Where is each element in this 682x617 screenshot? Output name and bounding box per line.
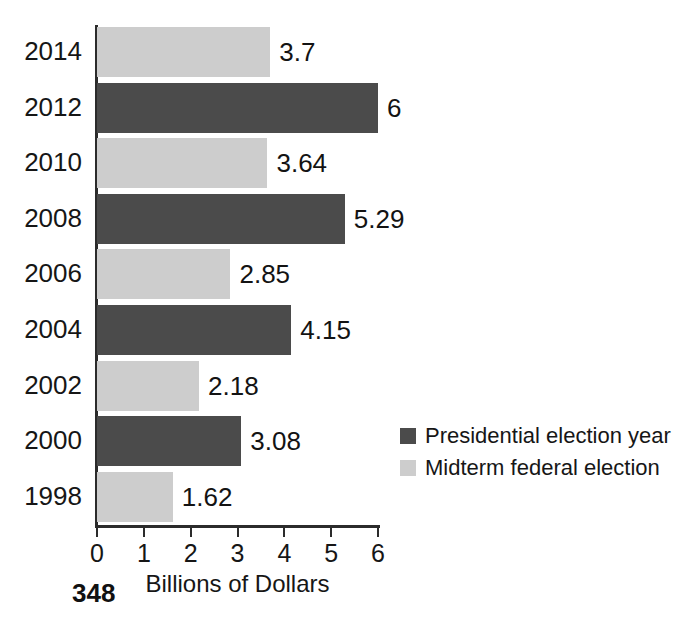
legend-item-presidential: Presidential election year: [400, 420, 670, 452]
bar-2014: [97, 27, 270, 77]
category-label-2010: 2010: [0, 147, 92, 177]
x-tick-6: [377, 528, 379, 537]
bar-row: 20103.64: [97, 136, 378, 192]
bar-row: 20143.7: [97, 25, 378, 81]
category-label-2000: 2000: [0, 425, 92, 455]
x-tick-0: [96, 528, 98, 537]
legend-swatch-presidential-icon: [400, 428, 416, 444]
bar-value-label-2000: 3.08: [250, 426, 301, 456]
bar-value-label-2008: 5.29: [354, 204, 405, 234]
chart-legend: Presidential election year Midterm feder…: [400, 420, 670, 484]
bar-value-label-2004: 4.15: [300, 315, 351, 345]
bar-row: 20044.15: [97, 303, 378, 359]
bar-2012: [97, 83, 378, 133]
bar-row: 20003.08: [97, 414, 378, 470]
x-axis-title: Billions of Dollars: [97, 570, 378, 598]
x-tick-5: [330, 528, 332, 537]
bar-2000: [97, 416, 241, 466]
bar-1998: [97, 472, 173, 522]
bar-row: 20022.18: [97, 359, 378, 415]
plot-area: 20143.72012620103.6420085.2920062.852004…: [97, 25, 378, 525]
bar-value-label-2002: 2.18: [208, 371, 259, 401]
x-tick-2: [190, 528, 192, 537]
bar-2006: [97, 249, 230, 299]
bar-row: 20062.85: [97, 247, 378, 303]
legend-item-midterm: Midterm federal election: [400, 452, 670, 484]
bar-2002: [97, 361, 199, 411]
bar-row: 20085.29: [97, 192, 378, 248]
x-tick-3: [237, 528, 239, 537]
bar-value-label-2010: 3.64: [276, 148, 327, 178]
legend-label-presidential: Presidential election year: [425, 423, 671, 449]
bar-value-label-2014: 3.7: [279, 37, 315, 67]
x-tick-label-6: 6: [358, 538, 398, 568]
x-tick-label-4: 4: [264, 538, 304, 568]
bar-value-label-1998: 1.62: [182, 482, 233, 512]
category-label-2002: 2002: [0, 370, 92, 400]
bar-2008: [97, 194, 345, 244]
category-label-2004: 2004: [0, 314, 92, 344]
legend-label-midterm: Midterm federal election: [425, 455, 660, 481]
bar-value-label-2006: 2.85: [239, 259, 290, 289]
bar-2010: [97, 138, 267, 188]
category-label-1998: 1998: [0, 481, 92, 511]
legend-swatch-midterm-icon: [400, 460, 416, 476]
x-tick-label-2: 2: [171, 538, 211, 568]
category-label-2008: 2008: [0, 203, 92, 233]
x-tick-4: [283, 528, 285, 537]
x-tick-label-5: 5: [311, 538, 351, 568]
x-tick-label-3: 3: [218, 538, 258, 568]
page-number: 348: [72, 578, 115, 608]
x-tick-label-1: 1: [124, 538, 164, 568]
x-tick-label-0: 0: [77, 538, 117, 568]
bar-row: 19981.62: [97, 470, 378, 526]
x-tick-1: [143, 528, 145, 537]
bar-2004: [97, 305, 291, 355]
category-label-2006: 2006: [0, 258, 92, 288]
category-label-2012: 2012: [0, 92, 92, 122]
bar-value-label-2012: 6: [387, 93, 401, 123]
bar-chart-figure: 20143.72012620103.6420085.2920062.852004…: [0, 0, 682, 617]
category-label-2014: 2014: [0, 36, 92, 66]
bar-row: 20126: [97, 81, 378, 137]
